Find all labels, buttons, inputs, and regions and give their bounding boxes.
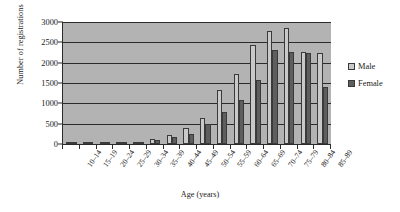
bar-female <box>272 50 277 144</box>
y-tick-label: 2000 <box>41 58 58 67</box>
bar-group <box>298 22 315 144</box>
y-axis-title: Number of registrations <box>16 0 25 105</box>
legend: MaleFemale <box>348 62 383 88</box>
bar-groups <box>63 22 331 144</box>
bar-group <box>180 22 197 144</box>
x-tick-label: 50–54 <box>219 148 237 169</box>
x-tick-label: 20–24 <box>118 148 136 169</box>
bar-female <box>105 142 110 144</box>
x-axis-tick-labels: 10–1415–1920–2425–2930–3435–3940–4445–49… <box>62 148 330 188</box>
legend-label: Male <box>358 62 375 71</box>
bar-group <box>164 22 181 144</box>
y-tick-label: 3000 <box>41 18 58 27</box>
x-tick-label: 55–59 <box>236 148 254 169</box>
bar-female <box>289 52 294 144</box>
bar-group <box>80 22 97 144</box>
bar-group <box>314 22 331 144</box>
y-axis-tick-labels: 050010001500200025003000 <box>26 0 62 212</box>
bar-group <box>113 22 130 144</box>
x-tick-label: 35–39 <box>169 148 187 169</box>
x-tick-label: 30–34 <box>152 148 170 169</box>
x-tick-label: 60–64 <box>252 148 270 169</box>
y-tick-label: 1500 <box>41 79 58 88</box>
legend-item-male: Male <box>348 62 383 71</box>
bar-group <box>197 22 214 144</box>
bar-group <box>97 22 114 144</box>
legend-label: Female <box>358 79 383 88</box>
x-tick-label: 85–89 <box>336 148 354 169</box>
bar-female <box>71 142 76 144</box>
bar-group <box>281 22 298 144</box>
x-tick-label: 10–14 <box>85 148 103 169</box>
bar-group <box>231 22 248 144</box>
bar-group <box>264 22 281 144</box>
x-axis-title: Age (years) <box>120 190 280 199</box>
x-tick-label: 25–29 <box>135 148 153 169</box>
legend-swatch-male-icon <box>348 63 355 70</box>
bar-group <box>247 22 264 144</box>
bar-group <box>147 22 164 144</box>
x-tick-label: 70–74 <box>286 148 304 169</box>
bar-chart: Number of registrations 0500100015002000… <box>0 0 400 212</box>
bar-group <box>130 22 147 144</box>
bar-female <box>189 134 194 144</box>
legend-item-female: Female <box>348 79 383 88</box>
x-tick-label: 15–19 <box>102 148 120 169</box>
x-tick-label: 45–49 <box>202 148 220 169</box>
x-tick-label: 75–79 <box>303 148 321 169</box>
bar-female <box>138 142 143 144</box>
bar-female <box>122 142 127 144</box>
bar-female <box>323 87 328 144</box>
y-tick-label: 500 <box>45 119 58 128</box>
bar-female <box>239 100 244 144</box>
plot-area <box>62 22 331 145</box>
bar-female <box>172 137 177 144</box>
y-tick-label: 2500 <box>41 38 58 47</box>
bar-group <box>214 22 231 144</box>
x-tick-label: 40–44 <box>185 148 203 169</box>
bar-group <box>63 22 80 144</box>
y-tick-label: 1000 <box>41 99 58 108</box>
bar-female <box>222 112 227 144</box>
x-tick-label: 80–84 <box>319 148 337 169</box>
x-tick-label: 65–69 <box>269 148 287 169</box>
bar-female <box>88 142 93 144</box>
bar-female <box>306 53 311 145</box>
bar-female <box>256 80 261 144</box>
bar-female <box>155 140 160 144</box>
bar-female <box>205 124 210 144</box>
legend-swatch-female-icon <box>348 80 355 87</box>
